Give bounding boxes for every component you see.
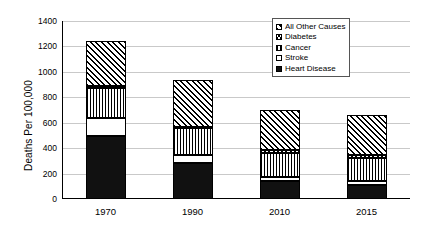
y-axis-tick-label: 0 [11, 194, 57, 204]
y-axis-tick-label: 1400 [11, 16, 57, 26]
legend-swatch [276, 24, 282, 30]
plot-frame [62, 21, 410, 199]
x-axis-tick-label: 2010 [240, 206, 320, 217]
legend-label: Stroke [285, 53, 308, 63]
legend-item: Diabetes [276, 32, 345, 42]
legend-swatch [276, 66, 282, 72]
y-axis-tick-label: 600 [11, 118, 57, 128]
y-axis-tick-label: 800 [11, 92, 57, 102]
y-axis-tick-label: 1000 [11, 67, 57, 77]
legend-item: All Other Causes [276, 22, 345, 32]
legend-item: Stroke [276, 53, 345, 63]
legend-swatch [276, 55, 282, 61]
plot-area [62, 21, 410, 199]
legend: All Other CausesDiabetesCancerStrokeHear… [272, 18, 350, 77]
legend-item: Cancer [276, 43, 345, 53]
legend-label: Cancer [285, 43, 311, 53]
x-axis-tick-label: 2015 [327, 206, 407, 217]
legend-swatch [276, 45, 282, 51]
legend-swatch [276, 34, 282, 40]
legend-label: Heart Disease [285, 64, 336, 74]
legend-label: All Other Causes [285, 22, 345, 32]
legend-label: Diabetes [285, 32, 317, 42]
y-axis-tick-label: 200 [11, 169, 57, 179]
x-axis-tick-label: 1990 [153, 206, 233, 217]
x-axis-tick-label: 1970 [66, 206, 146, 217]
chart-container: Deaths Per 100,000 020040060080010001200… [0, 0, 421, 247]
legend-item: Heart Disease [276, 64, 345, 74]
y-axis-tick-label: 1200 [11, 41, 57, 51]
y-axis-tick-label: 400 [11, 143, 57, 153]
